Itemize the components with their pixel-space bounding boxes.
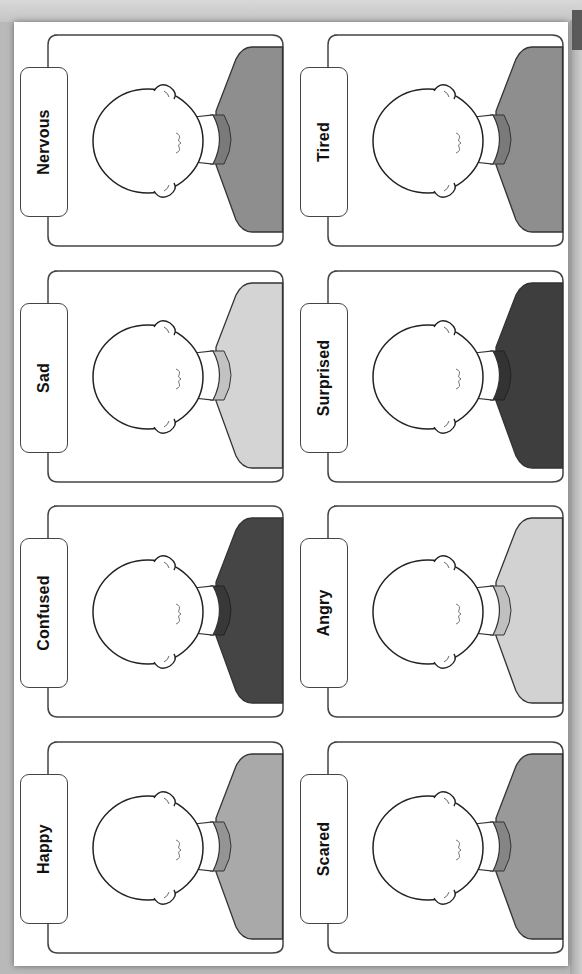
emotion-label: Tired <box>300 67 348 217</box>
label-text: Surprised <box>315 340 333 417</box>
label-text: Tired <box>315 122 333 162</box>
emotion-label: Happy <box>20 774 68 924</box>
emotion-card-surprised: Surprised <box>294 249 564 467</box>
emotion-label: Sad <box>20 303 68 453</box>
emotion-card-tired: Tired <box>294 13 564 231</box>
emotion-label: Nervous <box>20 67 68 217</box>
label-text: Nervous <box>35 109 53 174</box>
emotion-card-scared: Scared <box>294 720 564 938</box>
emotion-card-confused: Confused <box>14 484 284 702</box>
label-text: Scared <box>315 822 333 877</box>
label-text: Angry <box>315 589 333 636</box>
emotion-label: Scared <box>300 774 348 924</box>
emotion-card-nervous: Nervous <box>14 13 284 231</box>
emotion-card-happy: Happy <box>14 720 284 938</box>
emotion-card-angry: Angry <box>294 484 564 702</box>
label-text: Happy <box>35 824 53 874</box>
emotion-label: Confused <box>20 538 68 688</box>
adjacent-page-corner <box>572 10 582 50</box>
adjacent-page-edge <box>570 20 582 974</box>
emotion-label: Angry <box>300 538 348 688</box>
emotion-label: Surprised <box>300 303 348 453</box>
label-text: Confused <box>35 575 53 650</box>
label-text: Sad <box>35 363 53 393</box>
emotion-card-sad: Sad <box>14 249 284 467</box>
